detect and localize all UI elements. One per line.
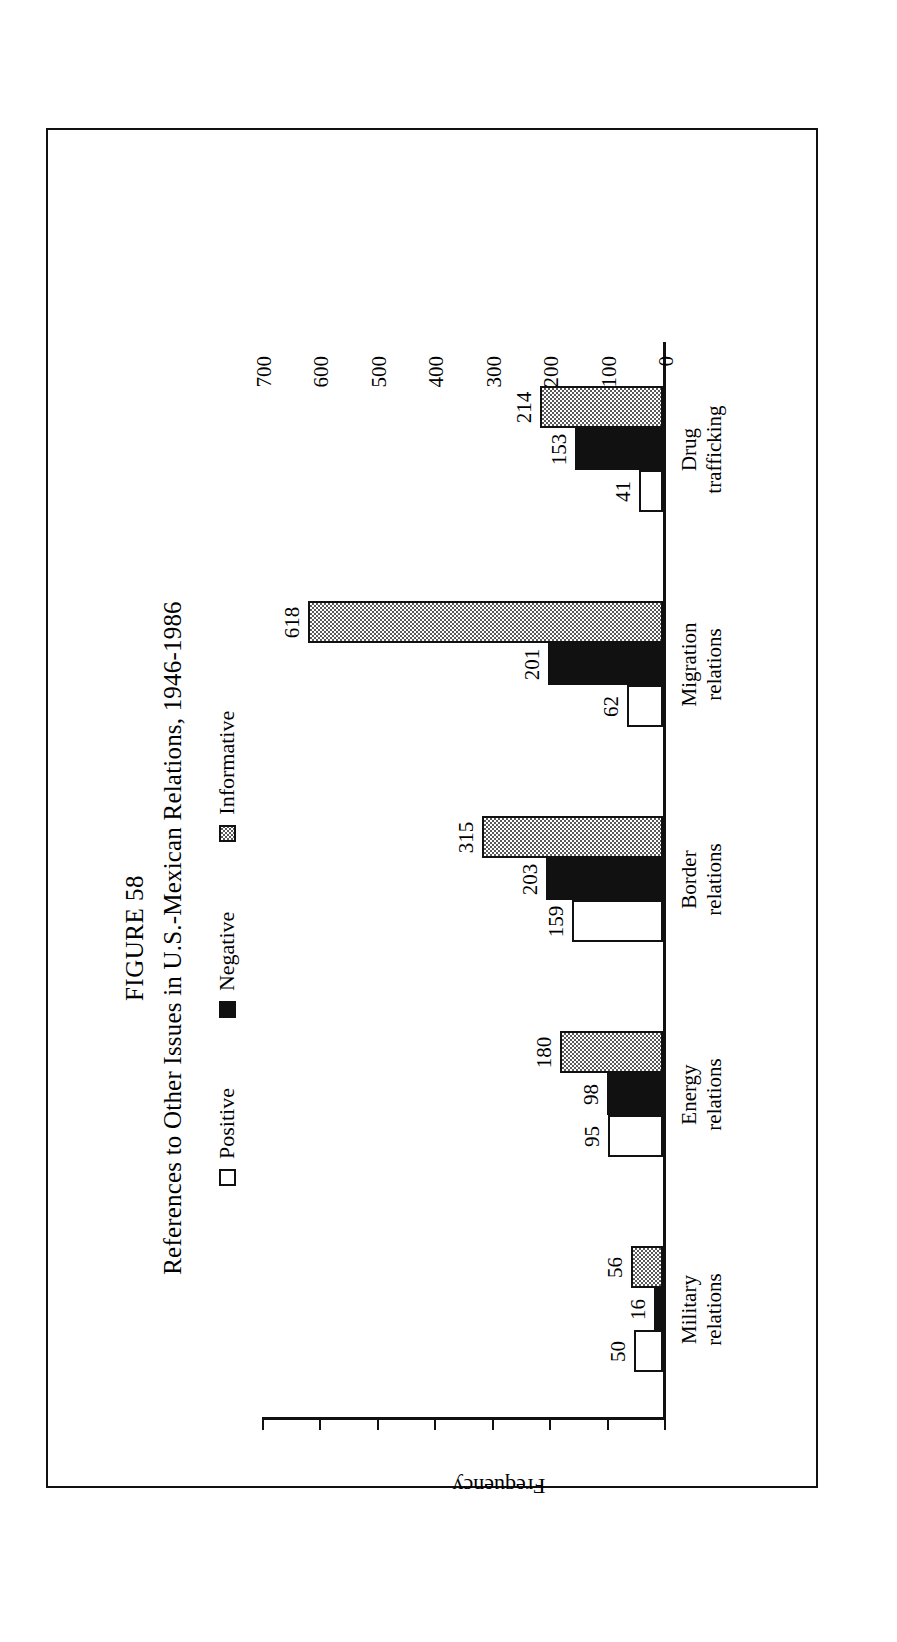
category-label: Drug trafficking (677, 405, 727, 493)
bar-value-label: 41 (613, 481, 634, 502)
category-label: Military relations (677, 1273, 727, 1345)
plot-area: Frequency 7006005004003002001000 501656M… (264, 342, 734, 1420)
y-axis-tick (607, 1420, 609, 1430)
black-square-icon (219, 1001, 236, 1018)
category-label: Migration relations (677, 623, 727, 707)
bar-slot: 56 (631, 1247, 663, 1289)
y-axis-tick (492, 1420, 494, 1430)
bar-positive[interactable] (608, 1116, 663, 1158)
bar-slot: 41 (639, 471, 663, 513)
bar-value-label: 201 (522, 649, 543, 681)
bar-negative[interactable] (575, 429, 663, 471)
figure-number: FIGURE 58 (118, 260, 152, 1616)
bar-positive[interactable] (639, 471, 663, 513)
figure-canvas: FIGURE 58 References to Other Issues in … (96, 260, 864, 1616)
bar-value-label: 315 (456, 822, 477, 854)
hatched-square-icon (219, 825, 236, 842)
bar-group: 41153214Drug trafficking (261, 342, 663, 557)
chart-legend: Positive Negative Informative (216, 711, 238, 1186)
y-axis-label: Frequency (453, 1473, 546, 1499)
bar-value-label: 203 (520, 864, 541, 896)
bar-value-label: 16 (628, 1299, 649, 1320)
bar-value-label: 98 (581, 1084, 602, 1105)
bar-value-label: 153 (549, 434, 570, 466)
y-axis-tick (319, 1420, 321, 1430)
legend-label-negative: Negative (216, 912, 238, 991)
bar-value-label: 180 (534, 1037, 555, 1069)
y-axis-tick (377, 1420, 379, 1430)
bar-informative[interactable] (482, 817, 663, 859)
bar-group: 62201618Migration relations (261, 557, 663, 772)
bar-informative[interactable] (631, 1247, 663, 1289)
bar-value-label: 618 (282, 607, 303, 639)
legend-item-negative: Negative (216, 912, 238, 1018)
legend-label-informative: Informative (216, 711, 238, 815)
bar-value-label: 56 (605, 1257, 626, 1278)
bar-informative[interactable] (540, 387, 663, 429)
bar-slot: 62 (627, 686, 663, 728)
white-square-icon (219, 1169, 236, 1186)
legend-label-positive: Positive (216, 1088, 238, 1159)
category-label: Energy relations (677, 1058, 727, 1130)
bar-value-label: 214 (514, 392, 535, 424)
bar-value-label: 62 (601, 696, 622, 717)
category-axis-line (663, 342, 666, 1420)
rotated-figure-wrapper: FIGURE 58 References to Other Issues in … (96, 260, 864, 1616)
value-axis-line (262, 1417, 666, 1420)
figure-page-border: FIGURE 58 References to Other Issues in … (46, 128, 818, 1488)
bar-slot: 315 (482, 817, 663, 859)
bar-groups: 501656Military relations9598180Energy re… (261, 342, 663, 1417)
bar-slot: 180 (560, 1032, 663, 1074)
bar-positive[interactable] (572, 901, 663, 943)
bar-slot: 16 (654, 1289, 663, 1331)
figure-title-block: FIGURE 58 References to Other Issues in … (118, 260, 190, 1616)
bar-slot: 98 (607, 1074, 663, 1116)
bar-negative[interactable] (546, 859, 663, 901)
bar-slot: 95 (608, 1116, 663, 1158)
y-axis-tick (664, 1420, 666, 1430)
bar-group: 159203315Border relations (261, 772, 663, 987)
bar-positive[interactable] (634, 1331, 663, 1373)
bar-slot: 159 (572, 901, 663, 943)
legend-item-informative: Informative (216, 711, 238, 842)
bar-group: 9598180Energy relations (261, 987, 663, 1202)
bar-value-label: 50 (608, 1341, 629, 1362)
bar-slot: 618 (308, 602, 663, 644)
bar-negative[interactable] (548, 644, 663, 686)
bar-group: 501656Military relations (261, 1202, 663, 1417)
bar-negative[interactable] (607, 1074, 663, 1116)
bar-value-label: 159 (546, 906, 567, 938)
bar-slot: 201 (548, 644, 663, 686)
category-label: Border relations (677, 843, 727, 915)
bar-positive[interactable] (627, 686, 663, 728)
y-axis-tick (434, 1420, 436, 1430)
bar-negative[interactable] (654, 1289, 663, 1331)
bar-informative[interactable] (308, 602, 663, 644)
figure-caption: References to Other Issues in U.S.-Mexic… (156, 260, 190, 1616)
y-axis-tick (549, 1420, 551, 1430)
bar-slot: 153 (575, 429, 663, 471)
bar-slot: 214 (540, 387, 663, 429)
bar-value-label: 95 (582, 1126, 603, 1147)
bar-slot: 203 (546, 859, 663, 901)
bar-informative[interactable] (560, 1032, 663, 1074)
bar-slot: 50 (634, 1331, 663, 1373)
legend-item-positive: Positive (216, 1088, 238, 1186)
y-axis-tick (262, 1420, 264, 1430)
